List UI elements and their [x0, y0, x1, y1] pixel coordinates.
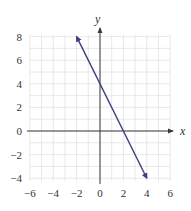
chart-canvas: x y −6−4−20246 86420−2−4 — [0, 0, 191, 211]
y-tick-label: 0 — [17, 125, 23, 137]
y-tick-label: −4 — [10, 172, 22, 184]
y-axis-label: y — [94, 12, 101, 26]
x-tick-label: 4 — [144, 187, 150, 199]
y-tick-label: 6 — [17, 54, 23, 66]
x-axis-label: x — [179, 124, 186, 138]
x-tick-label: 2 — [121, 187, 127, 199]
x-tick-label: 6 — [167, 187, 173, 199]
x-tick-label: −4 — [47, 187, 59, 199]
y-tick-label: 8 — [17, 31, 23, 43]
x-tick-label: −2 — [71, 187, 83, 199]
y-tick-labels: 86420−2−4 — [10, 31, 22, 185]
x-tick-label: 0 — [97, 187, 103, 199]
x-tick-labels: −6−4−20246 — [24, 187, 174, 199]
x-tick-label: −6 — [24, 187, 36, 199]
y-tick-label: 4 — [17, 78, 23, 90]
y-tick-label: 2 — [17, 101, 23, 113]
y-tick-label: −2 — [10, 149, 22, 161]
